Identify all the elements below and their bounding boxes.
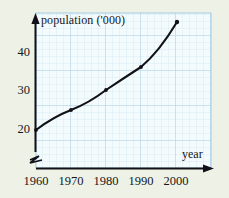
x-tick-label-1970: 1970 — [51, 174, 91, 189]
data-point — [34, 128, 38, 132]
x-tick-label-2000: 2000 — [156, 174, 196, 189]
chart-canvas — [0, 0, 229, 198]
y-tick-label-30: 30 — [4, 83, 30, 98]
x-tick-label-1980: 1980 — [86, 174, 126, 189]
data-point — [69, 108, 73, 112]
data-point — [139, 65, 143, 69]
data-point — [104, 88, 108, 92]
x-tick-label-1960: 1960 — [16, 174, 56, 189]
y-tick-label-20: 20 — [4, 122, 30, 137]
x-axis-label: year — [182, 147, 203, 162]
grid-major — [36, 13, 211, 168]
x-tick-label-1990: 1990 — [121, 174, 161, 189]
chart-figure: population ('000) year 40 30 20 1960 197… — [0, 0, 229, 198]
y-axis-label: population ('000) — [41, 13, 125, 28]
y-tick-label-40: 40 — [4, 45, 30, 60]
data-point — [175, 20, 179, 24]
